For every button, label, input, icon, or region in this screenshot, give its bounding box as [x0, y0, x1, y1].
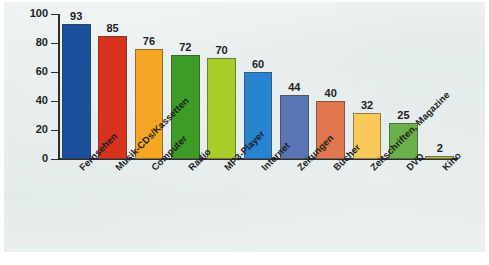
bar-value-label: 32	[347, 99, 387, 111]
bar-value-label: 70	[202, 44, 242, 56]
y-axis-tick	[51, 159, 58, 160]
y-axis-tick-label: 0	[4, 152, 48, 164]
bar-value-label: 25	[383, 109, 423, 121]
bar-value-label: 44	[274, 81, 314, 93]
bar-value-label: 76	[129, 35, 169, 47]
y-axis-tick	[51, 101, 58, 102]
chart-image: 020406080100 93Fernsehen85Musik-CDs/Kass…	[0, 0, 489, 265]
bar[interactable]	[62, 24, 91, 159]
bar-value-label: 85	[93, 22, 133, 34]
y-axis-tick-label: 60	[4, 65, 48, 77]
y-axis-tick-label: 100	[4, 7, 48, 19]
bar[interactable]	[207, 58, 236, 160]
bar-value-label: 60	[238, 58, 278, 70]
y-axis-tick	[51, 130, 58, 131]
bar-value-label: 72	[165, 41, 205, 53]
y-axis-tick-label: 80	[4, 36, 48, 48]
y-axis-tick	[51, 72, 58, 73]
y-axis-tick-label: 40	[4, 94, 48, 106]
y-axis-labels: 020406080100	[0, 14, 48, 160]
bar-value-label: 93	[56, 10, 96, 22]
bar-value-label: 40	[311, 87, 351, 99]
cut-off-header-text	[150, 0, 270, 4]
y-axis-tick-label: 20	[4, 123, 48, 135]
y-axis-tick	[51, 43, 58, 44]
